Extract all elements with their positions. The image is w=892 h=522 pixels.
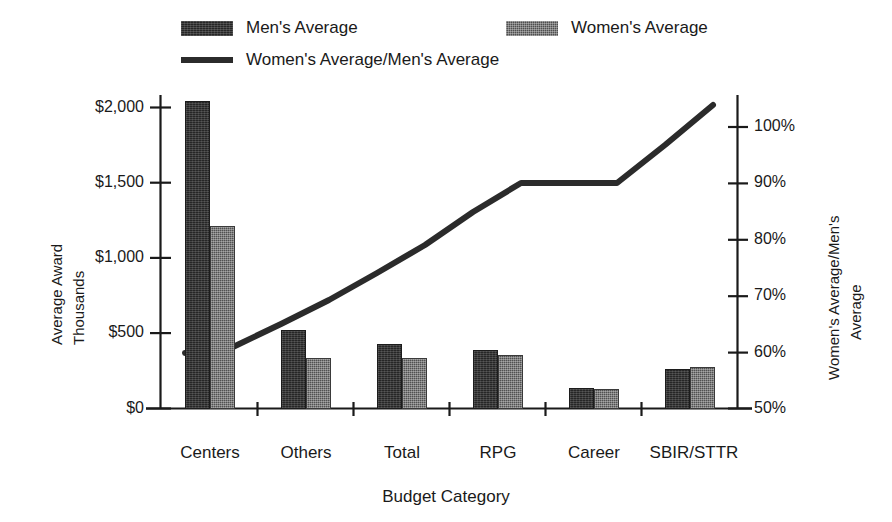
chart-figure: Men's Average Women's Average Women's Av… xyxy=(0,0,892,522)
right-tick-label-80: 80% xyxy=(754,230,786,248)
y2-axis-title-line2: Average xyxy=(847,284,864,340)
y-axis-title-line2: Thousands xyxy=(70,271,87,345)
right-tick-label-90: 90% xyxy=(754,173,786,191)
y-axis-title-line1: Average Award xyxy=(48,244,65,345)
right-tick-label-100: 100% xyxy=(754,117,795,135)
y2-axis-title-line1: Women's Average/Men's xyxy=(825,216,842,380)
bar-women-centers xyxy=(210,226,235,409)
x-category-label-total: Total xyxy=(352,443,452,463)
x-category-label-others: Others xyxy=(256,443,356,463)
bar-men-centers xyxy=(185,101,210,409)
bar-women-rpg xyxy=(498,355,523,409)
left-tick-label-1500: $1,500 xyxy=(48,173,144,191)
left-tick-label-2000: $2,000 xyxy=(48,98,144,116)
bar-men-career xyxy=(569,388,594,409)
x-category-label-centers: Centers xyxy=(160,443,260,463)
bar-women-sbir-sttr xyxy=(690,367,715,409)
x-category-label-rpg: RPG xyxy=(448,443,548,463)
bar-men-sbir-sttr xyxy=(665,369,690,409)
x-category-label-career: Career xyxy=(544,443,644,463)
bar-women-total xyxy=(402,358,427,409)
x-axis-title: Budget Category xyxy=(0,487,892,507)
bar-men-total xyxy=(377,344,402,409)
bar-men-rpg xyxy=(473,350,498,409)
left-tick-label-0: $0 xyxy=(48,399,144,417)
bar-women-career xyxy=(594,389,619,409)
bar-men-others xyxy=(281,330,306,409)
right-tick-label-50: 50% xyxy=(754,399,786,417)
left-axis-ticks xyxy=(146,108,171,409)
ratio-line-series xyxy=(185,105,713,353)
right-axis-ticks xyxy=(728,127,752,409)
x-category-label-sbir-sttr: SBIR/STTR xyxy=(638,443,750,463)
right-tick-label-70: 70% xyxy=(754,286,786,304)
bar-women-others xyxy=(306,358,331,409)
right-tick-label-60: 60% xyxy=(754,343,786,361)
